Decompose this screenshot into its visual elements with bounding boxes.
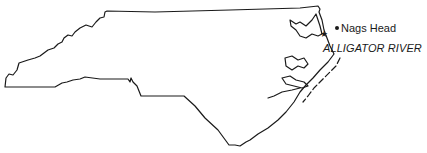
nags-head-dot-icon bbox=[335, 26, 339, 30]
neuse-river bbox=[282, 76, 308, 88]
alligator-river-label: ALLIGATOR RIVER bbox=[323, 42, 422, 54]
state-outline bbox=[5, 6, 334, 146]
albemarle-sound bbox=[290, 14, 322, 38]
star-icon: ★ bbox=[320, 29, 328, 39]
nags-head-label: Nags Head bbox=[341, 22, 396, 34]
cape-lookout-coast bbox=[268, 88, 300, 98]
pamlico-sound-edge bbox=[285, 56, 308, 70]
outer-banks bbox=[303, 58, 340, 102]
